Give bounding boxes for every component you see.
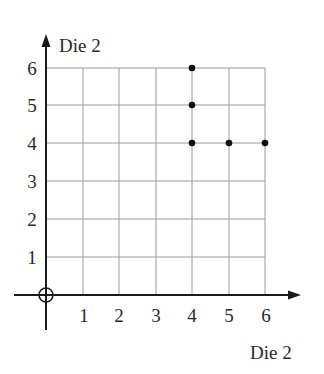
y-tick-2: 2	[27, 209, 37, 230]
point-4-5	[189, 102, 196, 109]
x-tick-1: 1	[79, 305, 89, 326]
point-6-4	[262, 140, 269, 147]
x-axis-arrow-icon	[288, 291, 301, 300]
point-4-6	[189, 65, 196, 72]
axes	[14, 34, 301, 330]
x-tick-6: 6	[261, 305, 271, 326]
y-tick-labels: 1 2 3 4 5 6	[27, 58, 37, 268]
x-tick-3: 3	[151, 305, 161, 326]
x-tick-4: 4	[187, 305, 197, 326]
y-tick-3: 3	[27, 171, 37, 192]
y-tick-5: 5	[27, 95, 37, 116]
y-tick-1: 1	[27, 247, 37, 268]
point-5-4	[226, 140, 233, 147]
y-tick-4: 4	[27, 133, 37, 154]
chart-canvas: 1 2 3 4 5 6 1 2 3 4 5 6 Die 2 Die 2	[0, 0, 324, 374]
x-axis-title: Die 2	[250, 342, 292, 363]
x-tick-2: 2	[114, 305, 124, 326]
x-tick-labels: 1 2 3 4 5 6	[79, 305, 271, 326]
point-4-4	[189, 140, 196, 147]
x-tick-5: 5	[224, 305, 234, 326]
y-axis-arrow-icon	[42, 34, 51, 47]
grid	[46, 68, 265, 295]
y-axis-title: Die 2	[59, 35, 101, 56]
y-tick-6: 6	[27, 58, 37, 79]
